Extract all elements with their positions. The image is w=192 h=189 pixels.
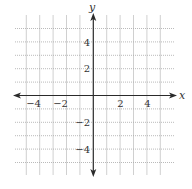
x-tick-label: −4 <box>26 98 41 109</box>
y-tick-label: 4 <box>84 37 90 48</box>
x-axis-label: x <box>179 89 186 102</box>
y-tick-label: −4 <box>75 144 90 155</box>
x-tick-label: 2 <box>117 98 123 109</box>
y-tick-label: −2 <box>75 117 90 128</box>
y-tick-label: 2 <box>84 63 90 74</box>
x-tick-labels: −4 −2 2 4 <box>26 98 151 109</box>
x-tick-label: −2 <box>53 98 68 109</box>
x-tick-label: 4 <box>144 98 150 109</box>
coordinate-plane: x y −4 −2 2 4 4 2 −2 −4 <box>0 0 192 189</box>
y-axis-label: y <box>88 1 96 14</box>
